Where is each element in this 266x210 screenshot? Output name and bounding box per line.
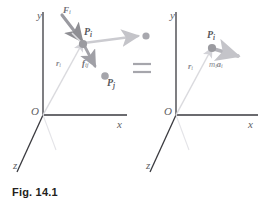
- right-Pi-subscript: i: [213, 34, 215, 42]
- left-panel-vectors: [43, 15, 150, 150]
- left-fij-subscript: ij: [85, 61, 89, 68]
- right-ai-subscript: i: [221, 63, 223, 69]
- left-origin-label: O: [31, 106, 39, 117]
- left-particle-Pi-dot: [79, 40, 87, 48]
- right-z-axis: [150, 115, 176, 172]
- equals-sign: [133, 64, 151, 72]
- left-particle-Pi-label: Pi: [84, 27, 92, 39]
- left-arrow-endpoint-dot: [142, 32, 149, 39]
- right-panel-axes: [150, 12, 258, 172]
- right-origin-label: O: [164, 106, 172, 117]
- right-z-guide: [176, 115, 189, 150]
- left-Pi-subscript: i: [90, 31, 92, 39]
- left-z-axis-label: z: [13, 160, 17, 171]
- figure-14-1: y x z O Fi Pi Pj fij ri y x z O Pi miai …: [0, 0, 266, 210]
- left-position-vector-ri: [43, 42, 83, 115]
- right-effective-force-miai-arrow: [214, 49, 238, 56]
- left-panel-axes: [17, 12, 127, 172]
- left-ri-subscript: i: [59, 62, 61, 68]
- right-particle-Pi-label: Pi: [207, 30, 215, 42]
- left-particle-Pj-label: Pj: [107, 78, 115, 90]
- right-z-axis-label: z: [146, 160, 150, 171]
- left-internal-force-fij-label: fij: [82, 59, 89, 69]
- left-x-axis-label: x: [117, 119, 122, 130]
- right-particle-Pi-dot: [208, 44, 216, 52]
- right-x-axis-label: x: [248, 119, 253, 130]
- left-applied-force-Fi-label: Fi: [63, 6, 71, 16]
- left-position-vector-ri-label: ri: [56, 59, 61, 68]
- right-position-vector-ri-label: ri: [188, 62, 193, 71]
- left-applied-force-Fi-arrow: [62, 15, 82, 41]
- figure-caption: Fig. 14.1: [12, 186, 58, 198]
- figure-vector-graphics: [0, 0, 266, 210]
- left-y-axis-label: y: [37, 10, 42, 21]
- right-y-axis-label: y: [170, 10, 175, 21]
- right-ri-subscript: i: [191, 65, 193, 71]
- left-Fi-subscript: i: [69, 8, 71, 15]
- right-effective-force-miai-label: miai: [209, 60, 223, 69]
- left-z-axis: [17, 115, 43, 172]
- right-position-vector-ri: [176, 48, 212, 115]
- right-panel-vectors: [176, 44, 238, 150]
- left-Pj-subscript: j: [113, 82, 115, 90]
- left-z-guide: [43, 115, 56, 150]
